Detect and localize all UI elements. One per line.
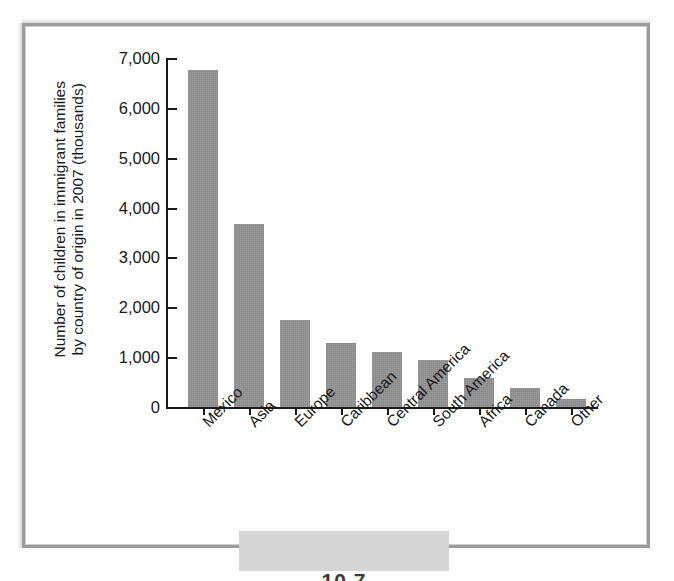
y-axis-tick-mark [168, 407, 177, 409]
bar [280, 320, 310, 407]
y-axis-tick-mark [168, 208, 177, 210]
y-axis-tick-label: 2,000 [98, 298, 160, 317]
y-axis-tick-mark [168, 58, 177, 60]
y-axis-tick-mark [168, 158, 177, 160]
y-axis-title-line-2: by country of origin in 2007 (thousands) [69, 39, 87, 399]
y-axis-tick-label: 7,000 [98, 49, 160, 68]
y-axis-tick-label: 0 [98, 398, 160, 417]
y-axis-tick-label: 4,000 [98, 198, 160, 217]
y-axis-tick-label: 3,000 [98, 248, 160, 267]
y-axis-tick-label: 6,000 [98, 98, 160, 117]
y-axis-tick-label: 1,000 [98, 348, 160, 367]
y-axis-title-line-1: Number of children in immigrant families [51, 39, 69, 399]
y-axis-title: Number of children in immigrant families… [51, 39, 88, 399]
bar-chart: Number of children in immigrant families… [25, 26, 653, 551]
y-axis-tick-mark [168, 307, 177, 309]
x-axis-category-labels: MexicoAsiaEuropeCaribbeanCentral America… [166, 414, 636, 534]
y-axis-tick-mark [168, 108, 177, 110]
bar [188, 70, 218, 407]
y-axis-tick-labels: 01,0002,0003,0004,0005,0006,0007,000 [98, 26, 160, 551]
bar [234, 224, 264, 407]
y-axis-tick-mark [168, 257, 177, 259]
plot-area [166, 58, 596, 407]
figure-caption-number: 10.7 [239, 569, 449, 581]
y-axis-tick-label: 5,000 [98, 148, 160, 167]
figure-caption-band: 10.7 [239, 531, 449, 571]
y-axis-tick-mark [168, 357, 177, 359]
figure-frame: Number of children in immigrant families… [22, 23, 650, 548]
